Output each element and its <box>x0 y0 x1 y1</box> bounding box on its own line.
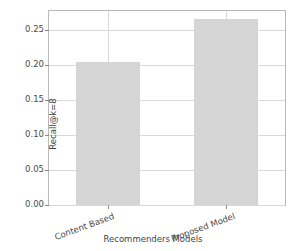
ytick-label-0.25: 0.25 <box>14 24 44 34</box>
y-axis-title: Recall@k=8 <box>48 98 58 149</box>
xtick-mark-content-based <box>108 205 109 209</box>
xtick-mark-proposed-model <box>226 205 227 209</box>
plot-area: Recall@k=8 <box>48 10 286 206</box>
bar-chart-figure: Recall@k=8 0.00 0.05 0.10 0.15 0.20 0.25… <box>0 0 306 251</box>
ytick-label-0.20: 0.20 <box>14 59 44 69</box>
ytick-mark-0.20 <box>45 65 49 66</box>
ytick-label-0.15: 0.15 <box>14 94 44 104</box>
gridline-y-0.00 <box>49 205 285 206</box>
ytick-mark-0.00 <box>45 205 49 206</box>
ytick-label-0.05: 0.05 <box>14 164 44 174</box>
x-axis-title: Recommenders Models <box>0 234 306 244</box>
ytick-label-0.00: 0.00 <box>14 199 44 209</box>
bar-content-based <box>76 62 141 205</box>
ytick-mark-0.25 <box>45 30 49 31</box>
ytick-label-0.10: 0.10 <box>14 129 44 139</box>
bar-proposed-model <box>194 19 259 205</box>
ytick-mark-0.05 <box>45 170 49 171</box>
